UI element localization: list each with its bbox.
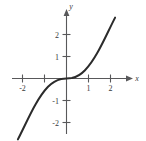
y-axis-label: y [68,2,73,11]
cubic-function-graph: -2 1 2 2 1 -1 -2 x y [0,0,146,141]
x-tick-label-pos1: 1 [87,84,91,93]
y-tick-label-pos1: 1 [55,53,59,62]
y-tick-label-neg2: -2 [52,119,59,128]
y-tick-label-pos2: 2 [55,31,59,40]
x-tick-label-neg2: -2 [19,84,26,93]
x-tick-label-pos2: 2 [109,84,113,93]
plot-area: -2 1 2 2 1 -1 -2 x y [0,0,146,141]
y-tick-label-neg1: -1 [52,97,59,106]
x-axis-arrowhead [126,76,133,82]
x-axis-label: x [134,74,139,83]
